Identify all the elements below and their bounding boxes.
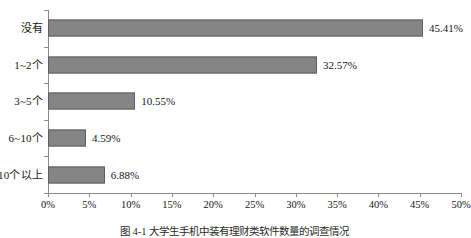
x-axis-tick bbox=[131, 193, 132, 197]
x-axis-tick-label: 5% bbox=[82, 199, 96, 210]
x-axis-tick bbox=[48, 193, 49, 197]
category-label: 3~5个 bbox=[14, 96, 43, 107]
bar[interactable] bbox=[48, 20, 423, 37]
bar-row: 10个以上 6.88% bbox=[48, 156, 461, 193]
category-label: 6~10个 bbox=[9, 133, 43, 144]
x-axis-tick-label: 0% bbox=[41, 199, 55, 210]
category-label: 10个以上 bbox=[0, 169, 43, 180]
figure-caption: 图 4-1 大学生手机中装有理财类软件数量的调查情况 bbox=[0, 226, 469, 238]
bar-value-label: 32.57% bbox=[323, 59, 357, 70]
x-axis-tick bbox=[255, 193, 256, 197]
bar[interactable] bbox=[48, 93, 135, 110]
bar[interactable] bbox=[48, 130, 86, 147]
x-axis-tick bbox=[337, 193, 338, 197]
bar-row: 没有 45.41% bbox=[48, 10, 461, 47]
x-axis-tick bbox=[378, 193, 379, 197]
x-axis-tick-label: 20% bbox=[204, 199, 223, 210]
x-axis-tick bbox=[89, 193, 90, 197]
x-axis-tick bbox=[172, 193, 173, 197]
bar-row: 1~2个 32.57% bbox=[48, 47, 461, 84]
bar[interactable] bbox=[48, 56, 317, 73]
bar-value-label: 45.41% bbox=[429, 23, 463, 34]
x-axis-tick-label: 50% bbox=[451, 199, 470, 210]
bar-value-label: 4.59% bbox=[92, 133, 120, 144]
category-label: 1~2个 bbox=[14, 59, 43, 70]
x-axis-tick-label: 40% bbox=[369, 199, 388, 210]
x-axis-tick bbox=[420, 193, 421, 197]
x-axis-tick bbox=[461, 193, 462, 197]
x-axis-tick-label: 35% bbox=[327, 199, 346, 210]
category-label: 没有 bbox=[21, 23, 43, 34]
x-axis-tick-label: 10% bbox=[121, 199, 140, 210]
x-axis-tick bbox=[296, 193, 297, 197]
bar-row: 6~10个 4.59% bbox=[48, 120, 461, 157]
plot-area: 没有 45.41% 1~2个 32.57% 3~5个 10.55% 6~10个 … bbox=[48, 10, 461, 193]
x-axis-tick-label: 25% bbox=[245, 199, 264, 210]
x-axis-tick-label: 15% bbox=[162, 199, 181, 210]
x-axis-tick-label: 30% bbox=[286, 199, 305, 210]
bar-value-label: 6.88% bbox=[111, 169, 139, 180]
x-axis-tick bbox=[213, 193, 214, 197]
x-axis-tick-label: 45% bbox=[410, 199, 429, 210]
bar-value-label: 10.55% bbox=[141, 96, 175, 107]
bar[interactable] bbox=[48, 166, 105, 183]
bar-row: 3~5个 10.55% bbox=[48, 83, 461, 120]
